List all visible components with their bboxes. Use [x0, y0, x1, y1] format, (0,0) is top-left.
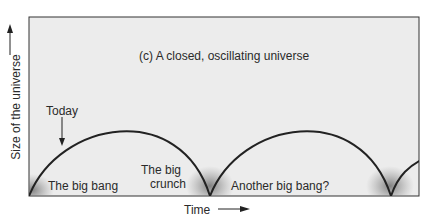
panel — [29, 17, 419, 196]
y-axis-arrow-head — [7, 24, 13, 33]
x-axis-label: Time — [184, 203, 210, 217]
today-label: Today — [46, 104, 78, 118]
glow-big-crunch — [186, 166, 234, 206]
another-big-bang-label: Another big bang? — [231, 179, 329, 193]
big-crunch-label-1: The big — [141, 163, 181, 177]
big-bang-label: The big bang — [48, 179, 118, 193]
y-axis-label: Size of the universe — [9, 47, 23, 167]
x-axis-arrow-head — [240, 206, 250, 212]
diagram-title: (c) A closed, oscillating universe — [139, 49, 309, 63]
big-crunch-label-2: crunch — [150, 177, 186, 191]
glow-next-bang — [366, 166, 414, 206]
